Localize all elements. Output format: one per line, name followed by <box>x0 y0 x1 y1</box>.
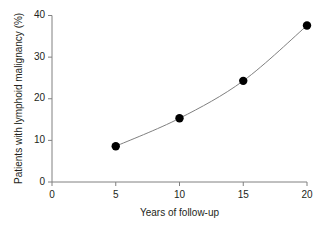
data-point-marker <box>175 114 183 122</box>
x-tick-label: 15 <box>223 190 263 200</box>
x-tick-label: 5 <box>96 190 136 200</box>
y-axis-title: Patients with lymphoid malignancy (%) <box>14 13 24 184</box>
x-tick-label: 0 <box>32 190 72 200</box>
y-tick-label: 0 <box>39 177 45 187</box>
y-tick-label: 20 <box>34 93 45 103</box>
chart-figure: 010203040 05101520 Patients with lymphoi… <box>0 0 334 234</box>
y-tick-label: 30 <box>34 52 45 62</box>
x-axis-title: Years of follow-up <box>52 208 307 218</box>
x-tick-label: 10 <box>160 190 200 200</box>
data-point-marker <box>239 77 247 85</box>
data-point-marker <box>303 21 311 29</box>
x-tick-label: 20 <box>287 190 327 200</box>
chart-axes <box>52 16 307 183</box>
data-line-series-1 <box>116 25 307 146</box>
y-tick-label: 40 <box>34 10 45 20</box>
data-point-marker <box>112 142 120 150</box>
data-point-markers <box>112 21 312 150</box>
y-tick-label: 10 <box>34 135 45 145</box>
chart-tick-marks <box>48 16 307 187</box>
